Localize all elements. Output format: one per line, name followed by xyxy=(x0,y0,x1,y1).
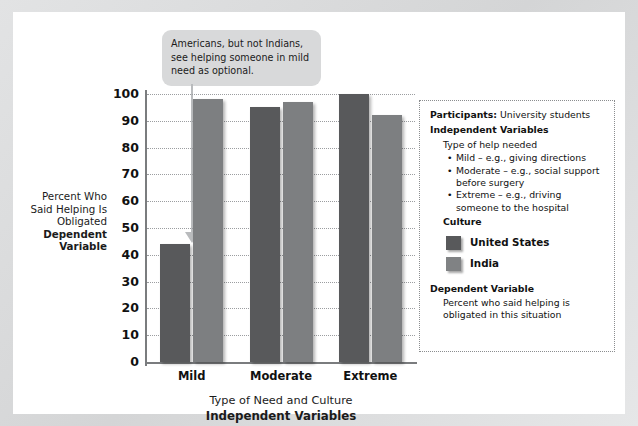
x-axis-title-plain: Type of Need and Culture xyxy=(209,394,352,407)
participants-row: Participants: University students xyxy=(430,109,606,121)
callout-box: Americans, but not Indians, see helping … xyxy=(162,30,321,86)
y-axis-tick-labels: 0102030405060708090100 xyxy=(109,94,139,362)
list-item: Extreme – e.g., driving someone to the h… xyxy=(456,189,606,214)
gridline xyxy=(147,94,415,95)
y-axis-tick-label: 50 xyxy=(109,220,139,235)
y-axis-tick-label: 30 xyxy=(109,274,139,289)
x-axis-title: Type of Need and Culture Independent Var… xyxy=(147,394,415,424)
bar-mild-india xyxy=(193,99,223,362)
bar-extreme-india xyxy=(372,115,402,362)
y-axis-tick-label: 10 xyxy=(109,327,139,342)
legend-swatch-icon-india xyxy=(446,257,461,271)
x-axis-category-label: Mild xyxy=(147,369,236,383)
callout-text: Americans, but not Indians, see helping … xyxy=(171,38,309,76)
x-axis-category-label: Extreme xyxy=(326,369,415,383)
y-axis-tick-label: 60 xyxy=(109,193,139,208)
y-axis-tick-label: 80 xyxy=(109,140,139,155)
y-axis-tick-label: 0 xyxy=(109,354,139,369)
participants-label: Participants: xyxy=(430,109,497,120)
legend-entry-india: India xyxy=(446,257,606,271)
type-of-help-label: Type of help needed xyxy=(443,139,606,151)
culture-header: Culture xyxy=(443,216,606,228)
y-axis-title-bold: Dependent Variable xyxy=(43,228,107,253)
y-axis-tick-label: 70 xyxy=(109,166,139,181)
bar-moderate-united-states xyxy=(250,107,280,362)
legend-entry-united-states: United States xyxy=(446,236,606,250)
y-axis-tick-label: 90 xyxy=(109,113,139,128)
plot-area xyxy=(147,94,415,362)
help-type-list: Mild – e.g., giving directions Moderate … xyxy=(430,152,606,214)
x-axis-category-label: Moderate xyxy=(236,369,325,383)
bar-mild-united-states xyxy=(160,244,190,362)
list-item: Moderate – e.g., social support before s… xyxy=(456,165,606,190)
legend-label-india: India xyxy=(470,257,499,269)
page-background: Americans, but not Indians, see helping … xyxy=(0,0,638,426)
x-axis-title-bold: Independent Variables xyxy=(206,409,356,423)
y-axis-title: Percent Who Said Helping Is Obligated De… xyxy=(29,190,107,253)
independent-variables-header: Independent Variables xyxy=(430,124,606,136)
legend-swatch-icon-united-states xyxy=(446,236,461,250)
figure-canvas: Americans, but not Indians, see helping … xyxy=(13,12,625,414)
y-axis-tick-label: 100 xyxy=(109,86,139,101)
y-axis-title-plain: Percent Who Said Helping Is Obligated xyxy=(30,190,107,227)
dependent-variable-header: Dependent Variable xyxy=(430,283,606,295)
legend-label-united-states: United States xyxy=(470,236,549,248)
y-axis-tick-label: 40 xyxy=(109,247,139,262)
x-axis-line xyxy=(145,362,417,364)
info-legend-box: Participants: University students Indepe… xyxy=(419,100,615,352)
dependent-variable-text: Percent who said helping is obligated in… xyxy=(443,297,606,322)
y-axis-tick-label: 20 xyxy=(109,300,139,315)
bar-extreme-united-states xyxy=(339,94,369,362)
bar-moderate-india xyxy=(283,102,313,362)
participants-value: University students xyxy=(500,109,590,120)
list-item: Mild – e.g., giving directions xyxy=(456,152,606,164)
